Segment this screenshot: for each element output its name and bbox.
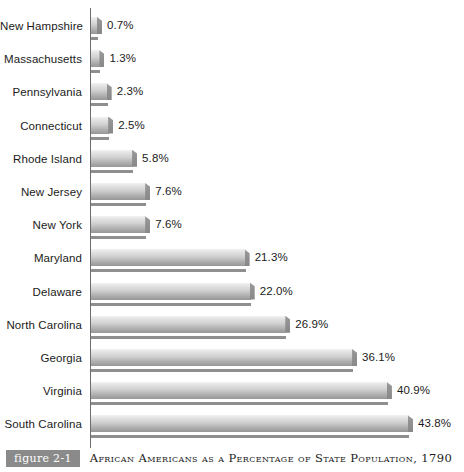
bar-value-label: 2.3%	[117, 83, 144, 100]
bar-value-label: 1.3%	[109, 50, 136, 67]
bar-category-label: Rhode Island	[0, 143, 82, 176]
bar-bottom-face	[91, 269, 246, 272]
bar-category-label: Connecticut	[0, 110, 82, 143]
bar-category-label: South Carolina	[0, 408, 82, 441]
bar	[91, 183, 146, 203]
bar	[91, 117, 109, 137]
bar-fill	[91, 249, 246, 266]
figure-caption: figure 2-1 African Americans as a Percen…	[0, 449, 464, 467]
bar-fill	[91, 283, 251, 300]
bar	[91, 349, 353, 369]
bar-fill	[91, 216, 146, 233]
bar-end-face	[145, 216, 150, 233]
bar-value-label: 7.6%	[155, 216, 182, 233]
bar-row: South Carolina43.8%	[0, 408, 464, 441]
bar-end-face	[97, 17, 102, 34]
bar-end-face	[145, 183, 150, 200]
bar-end-face	[285, 316, 290, 333]
bar-end-face	[245, 249, 250, 266]
bar-end-face	[107, 83, 112, 100]
bar-end-face	[132, 150, 137, 167]
bar-bottom-face	[91, 37, 98, 40]
bar	[91, 249, 246, 269]
bar-value-label: 26.9%	[295, 316, 328, 333]
bar-bottom-face	[91, 303, 251, 306]
bar-category-label: Massachusetts	[0, 43, 82, 76]
bar	[91, 415, 409, 435]
bar-bottom-face	[91, 236, 146, 239]
bar-end-face	[108, 117, 113, 134]
bar-row: New Jersey7.6%	[0, 176, 464, 209]
bar	[91, 216, 146, 236]
figure-number-tag: figure 2-1	[6, 450, 80, 467]
bar-bottom-face	[91, 203, 146, 206]
bar-row: Maryland21.3%	[0, 242, 464, 275]
bar-fill	[91, 17, 98, 34]
bar-value-label: 5.8%	[142, 150, 169, 167]
bar-bottom-face	[91, 103, 108, 106]
bar-row: Massachusetts1.3%	[0, 43, 464, 76]
bar-bottom-face	[91, 435, 409, 438]
figure-container: New Hampshire0.7%Massachusetts1.3%Pennsy…	[0, 0, 464, 472]
bar-row: Pennsylvania2.3%	[0, 76, 464, 109]
bar-end-face	[408, 415, 413, 432]
bar-chart-plot-area: New Hampshire0.7%Massachusetts1.3%Pennsy…	[0, 0, 464, 448]
bar-fill	[91, 415, 409, 432]
bar-end-face	[352, 349, 357, 366]
bar-row: Rhode Island5.8%	[0, 143, 464, 176]
bar-fill	[91, 50, 100, 67]
bar-end-face	[99, 50, 104, 67]
bar	[91, 283, 251, 303]
bar-row: Georgia36.1%	[0, 342, 464, 375]
bar-end-face	[387, 382, 392, 399]
bar-fill	[91, 83, 108, 100]
bar-row: Connecticut2.5%	[0, 110, 464, 143]
bar-bottom-face	[91, 70, 100, 73]
bar-bottom-face	[91, 336, 286, 339]
bar-fill	[91, 150, 133, 167]
bar-category-label: Pennsylvania	[0, 76, 82, 109]
bar-category-label: New Jersey	[0, 176, 82, 209]
bar-value-label: 22.0%	[260, 283, 293, 300]
bar	[91, 50, 100, 70]
bar-category-label: New Hampshire	[0, 10, 82, 43]
bar	[91, 316, 286, 336]
bar	[91, 382, 388, 402]
bar-value-label: 2.5%	[118, 117, 145, 134]
bar-fill	[91, 183, 146, 200]
bar	[91, 150, 133, 170]
bar-value-label: 43.8%	[418, 415, 451, 432]
bar-row: New Hampshire0.7%	[0, 10, 464, 43]
bar-category-label: Delaware	[0, 276, 82, 309]
bar-fill	[91, 316, 286, 333]
bar-fill	[91, 117, 109, 134]
bar-category-label: Maryland	[0, 242, 82, 275]
bar-value-label: 40.9%	[397, 382, 430, 399]
bar-category-label: Virginia	[0, 375, 82, 408]
bar-value-label: 0.7%	[107, 17, 134, 34]
bar-row: Delaware22.0%	[0, 276, 464, 309]
bar-bottom-face	[91, 369, 353, 372]
figure-caption-text: African Americans as a Percentage of Sta…	[90, 451, 453, 465]
bar-bottom-face	[91, 137, 109, 140]
bar-end-face	[250, 283, 255, 300]
bar	[91, 17, 98, 37]
bar-row: New York7.6%	[0, 209, 464, 242]
bar-value-label: 36.1%	[362, 349, 395, 366]
bar-bottom-face	[91, 402, 388, 405]
bar-category-label: North Carolina	[0, 309, 82, 342]
bar-category-label: New York	[0, 209, 82, 242]
bar-row: Virginia40.9%	[0, 375, 464, 408]
bar	[91, 83, 108, 103]
bar-fill	[91, 349, 353, 366]
bar-value-label: 21.3%	[255, 249, 288, 266]
bar-value-label: 7.6%	[155, 183, 182, 200]
bar-category-label: Georgia	[0, 342, 82, 375]
bar-row: North Carolina26.9%	[0, 309, 464, 342]
bar-fill	[91, 382, 388, 399]
bar-bottom-face	[91, 170, 133, 173]
